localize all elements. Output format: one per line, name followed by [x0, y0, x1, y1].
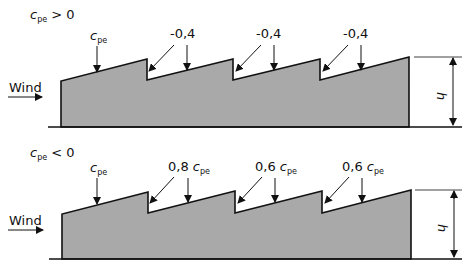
- diagram-negative-cpe: cpe < 0 Wind cpe 0,8 cpe 0,6 cpe 0,6 cpe…: [8, 145, 462, 259]
- case-label: cpe < 0: [30, 145, 75, 162]
- annotation-cpe: cpe: [90, 28, 107, 45]
- annotation-value: -0,4: [170, 26, 195, 41]
- case-label: cpe > 0: [30, 7, 75, 24]
- arrow-diagonal-icon: [149, 45, 174, 71]
- arrow-diagonal-icon: [325, 177, 349, 203]
- wind-label: Wind: [9, 213, 42, 228]
- annotation-value: -0,4: [256, 26, 281, 41]
- building-section: [62, 190, 411, 259]
- arrow-diagonal-icon: [238, 177, 262, 203]
- height-label: h: [434, 92, 449, 100]
- arrow-diagonal-icon: [323, 45, 348, 71]
- building-section: [61, 57, 409, 127]
- annotation-factor: 0,8 cpe: [168, 159, 210, 176]
- diagram-positive-cpe: cpe > 0 Wind cpe -0,4 -0,4 -0,4 h: [8, 7, 462, 127]
- wind-label: Wind: [9, 80, 42, 95]
- arrow-diagonal-icon: [236, 45, 261, 71]
- annotation-factor: 0,6 cpe: [255, 159, 297, 176]
- annotation-cpe: cpe: [90, 160, 107, 177]
- arrow-diagonal-icon: [150, 177, 174, 203]
- annotation-factor: 0,6 cpe: [342, 159, 384, 176]
- multispan-roof-diagram: cpe > 0 Wind cpe -0,4 -0,4 -0,4 h cpe < …: [0, 0, 467, 270]
- height-label: h: [435, 224, 450, 232]
- annotation-value: -0,4: [343, 26, 368, 41]
